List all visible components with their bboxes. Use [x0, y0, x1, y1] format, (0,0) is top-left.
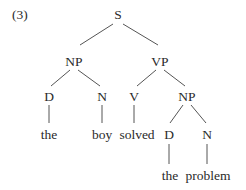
edge-vp-v	[137, 70, 156, 86]
edge-s-np	[80, 24, 113, 45]
word-boy: boy	[92, 128, 112, 142]
node-n-subject: N	[97, 90, 107, 104]
edge-s-vp	[123, 24, 158, 45]
edge-np-n2	[191, 105, 206, 123]
node-d-object: D	[164, 128, 174, 142]
edge-np-d2	[170, 105, 183, 123]
word-solved: solved	[119, 128, 154, 142]
edge-np-n	[78, 70, 100, 86]
node-d-subject: D	[44, 90, 54, 104]
node-v: V	[129, 90, 139, 104]
edge-np-d	[51, 70, 70, 86]
edge-vp-np	[164, 70, 185, 86]
node-np-subject: NP	[65, 55, 82, 69]
word-the-2: the	[162, 169, 179, 183]
node-s: S	[114, 8, 122, 22]
word-problem: problem	[186, 169, 231, 183]
node-np-object: NP	[178, 90, 195, 104]
tree-edges	[0, 0, 246, 190]
node-n-object: N	[202, 128, 212, 142]
node-vp: VP	[151, 55, 168, 69]
word-the-1: the	[41, 128, 58, 142]
